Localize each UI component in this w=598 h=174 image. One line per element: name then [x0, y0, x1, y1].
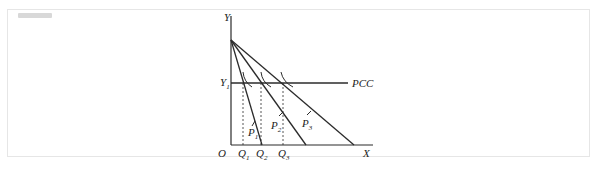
pcc-label: PCC	[351, 77, 374, 89]
p3-label: P3	[301, 117, 313, 132]
budget-line-p2	[231, 40, 306, 145]
p3-pointer	[307, 111, 311, 115]
q2-label: Q2	[256, 147, 268, 162]
q3-label: Q3	[278, 147, 290, 162]
y1-label: Y1	[220, 76, 230, 91]
x-axis-label: X	[362, 147, 371, 159]
p2-label: P2	[270, 119, 282, 134]
origin-label: O	[218, 147, 226, 159]
p2-pointer	[279, 112, 283, 116]
pcc-diagram: Y X O Y1 PCC P1 P2 P3 Q1 Q2 Q3	[0, 0, 598, 174]
budget-line-p1	[231, 40, 262, 145]
q1-label: Q1	[238, 147, 249, 162]
